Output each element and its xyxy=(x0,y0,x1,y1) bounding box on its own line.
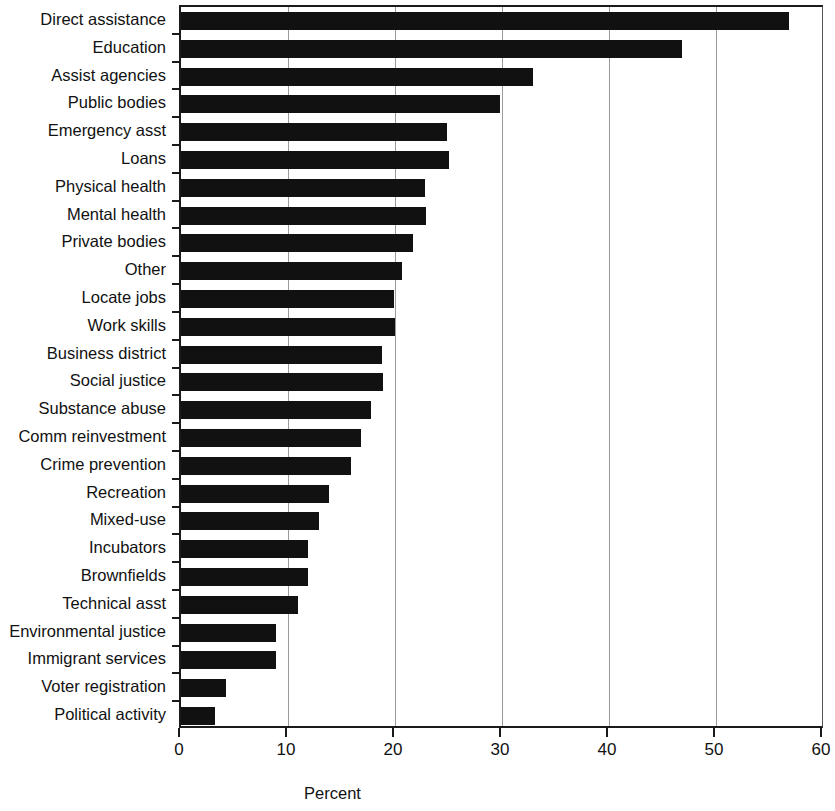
y-axis-tick xyxy=(172,255,180,257)
y-axis-tick xyxy=(172,645,180,647)
x-axis-tick xyxy=(285,728,287,737)
category-label: Direct assistance xyxy=(40,10,166,28)
y-axis-tick xyxy=(172,450,180,452)
category-label: Recreation xyxy=(86,483,166,501)
x-axis-tick xyxy=(178,728,180,737)
x-axis-title: Percent xyxy=(0,784,835,803)
category-label: Private bodies xyxy=(61,232,166,250)
category-label: Substance abuse xyxy=(38,399,166,417)
bar xyxy=(181,707,215,725)
bar xyxy=(181,624,276,642)
category-label: Physical health xyxy=(55,177,166,195)
x-axis-tick-label: 40 xyxy=(577,740,637,760)
x-axis-tick xyxy=(713,728,715,737)
x-axis-tick xyxy=(820,728,822,737)
x-axis-tick-label: 0 xyxy=(149,740,209,760)
category-label: Social justice xyxy=(70,371,166,389)
bar xyxy=(181,540,308,558)
category-label: Mental health xyxy=(67,205,166,223)
bar xyxy=(181,373,383,391)
x-axis-title-label: Percent xyxy=(304,784,361,803)
bars-layer xyxy=(181,7,822,726)
y-axis-tick xyxy=(172,283,180,285)
x-axis-tick xyxy=(392,728,394,737)
y-axis-tick xyxy=(172,589,180,591)
category-label: Other xyxy=(125,260,166,278)
y-axis-tick xyxy=(172,561,180,563)
x-axis-tick xyxy=(499,728,501,737)
bar xyxy=(181,346,382,364)
y-axis-tick xyxy=(172,506,180,508)
y-axis-tick xyxy=(172,61,180,63)
bar xyxy=(181,401,371,419)
category-label: Technical asst xyxy=(62,594,166,612)
category-label: Crime prevention xyxy=(40,455,166,473)
y-axis-tick xyxy=(172,33,180,35)
bar xyxy=(181,679,226,697)
y-axis-tick xyxy=(172,339,180,341)
category-label: Voter registration xyxy=(41,677,166,695)
y-axis-tick xyxy=(172,672,180,674)
x-axis-tick-label: 60 xyxy=(791,740,835,760)
category-label: Immigrant services xyxy=(28,649,166,667)
y-axis-tick xyxy=(172,88,180,90)
bar xyxy=(181,429,361,447)
category-label: Environmental justice xyxy=(9,622,166,640)
y-axis-tick xyxy=(172,311,180,313)
bar xyxy=(181,290,394,308)
y-axis-tick xyxy=(172,116,180,118)
bar xyxy=(181,568,308,586)
category-label: Comm reinvestment xyxy=(18,427,166,445)
bar xyxy=(181,68,533,86)
bar xyxy=(181,12,789,30)
category-label: Emergency asst xyxy=(48,121,166,139)
bar xyxy=(181,179,425,197)
y-axis-tick xyxy=(172,394,180,396)
x-axis-tick xyxy=(606,728,608,737)
category-label: Locate jobs xyxy=(82,288,166,306)
bar xyxy=(181,318,395,336)
plot-area xyxy=(179,5,823,728)
category-label: Work skills xyxy=(87,316,166,334)
y-axis-tick xyxy=(172,700,180,702)
bar xyxy=(181,123,447,141)
x-axis-tick-label: 10 xyxy=(256,740,316,760)
bar xyxy=(181,457,351,475)
bar xyxy=(181,151,449,169)
y-axis-tick xyxy=(172,478,180,480)
y-axis-tick xyxy=(172,172,180,174)
x-axis-tick-label: 50 xyxy=(684,740,744,760)
category-label: Business district xyxy=(47,344,166,362)
y-axis-tick xyxy=(172,533,180,535)
y-axis-tick xyxy=(172,227,180,229)
bar xyxy=(181,512,319,530)
bar xyxy=(181,485,329,503)
y-axis-tick xyxy=(172,200,180,202)
category-label: Mixed-use xyxy=(90,510,166,528)
bar xyxy=(181,234,413,252)
y-axis-tick xyxy=(172,367,180,369)
bar xyxy=(181,651,276,669)
y-axis-tick xyxy=(172,617,180,619)
category-label: Education xyxy=(93,38,166,56)
x-axis-tick-label: 30 xyxy=(470,740,530,760)
category-label: Brownfields xyxy=(81,566,166,584)
category-label: Public bodies xyxy=(68,93,166,111)
bar xyxy=(181,207,426,225)
x-axis-tick-label: 20 xyxy=(363,740,423,760)
y-axis-tick xyxy=(172,422,180,424)
y-axis-tick xyxy=(172,144,180,146)
bar xyxy=(181,596,298,614)
bar xyxy=(181,262,402,280)
category-axis: Direct assistanceEducationAssist agencie… xyxy=(0,5,172,728)
category-label: Incubators xyxy=(89,538,166,556)
bar xyxy=(181,40,682,58)
horizontal-bar-chart: Direct assistanceEducationAssist agencie… xyxy=(0,0,835,811)
bar xyxy=(181,95,500,113)
category-label: Political activity xyxy=(54,705,166,723)
category-label: Assist agencies xyxy=(51,66,166,84)
category-label: Loans xyxy=(121,149,166,167)
